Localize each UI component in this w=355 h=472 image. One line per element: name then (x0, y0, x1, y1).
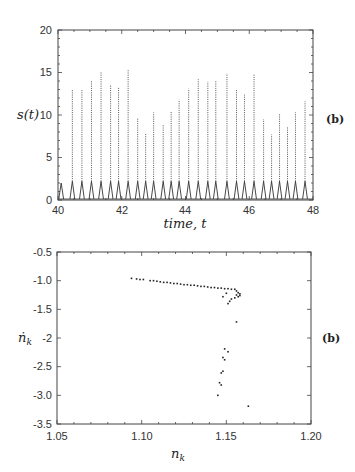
y-tick-neg3.0: -3.0 (33, 389, 52, 401)
x-tick-46: 46 (243, 204, 255, 216)
bottom-plot-ticks (57, 252, 311, 424)
x-tick-48: 48 (307, 204, 319, 216)
time-series-plot: 0 5 10 15 20 40 42 44 46 48 s(t) time, t… (17, 24, 344, 231)
ylabel-subscript: k (26, 337, 31, 347)
bottom-plot-series (131, 278, 249, 407)
top-x-tick-labels: 40 42 44 46 48 (52, 204, 319, 216)
y-tick-15: 15 (40, 66, 52, 78)
bottom-panel-label: (b) (322, 332, 340, 345)
x-tick-1.05: 1.05 (46, 430, 67, 442)
top-x-axis-label: time, t (164, 216, 208, 231)
y-tick-neg1.0: -1.0 (33, 274, 52, 286)
x-tick-1.10: 1.10 (131, 430, 152, 442)
return-map-plot: -0.5 -1.0 -1.5 -2 -2.5 -3.0 -3.5 1.05 1.… (18, 246, 340, 463)
xlabel-main: n (171, 446, 179, 461)
bottom-x-tick-labels: 1.05 1.10 1.15 1.20 (46, 430, 321, 442)
y-tick-neg2.5: -2.5 (33, 360, 52, 372)
ylabel-main: ṅ (18, 330, 26, 345)
x-tick-40: 40 (52, 204, 64, 216)
top-y-axis-label: s(t) (17, 107, 39, 122)
bottom-y-axis-label: ṅk (18, 330, 32, 347)
y-tick-neg2: -2 (42, 332, 52, 344)
x-tick-1.20: 1.20 (300, 430, 321, 442)
y-tick-20: 20 (40, 24, 52, 36)
top-plot-ticks (58, 30, 313, 200)
top-plot-frame (58, 30, 313, 200)
bottom-plot-frame (57, 252, 311, 424)
x-tick-1.15: 1.15 (215, 430, 236, 442)
bottom-y-tick-labels: -0.5 -1.0 -1.5 -2 -2.5 -3.0 -3.5 (33, 246, 52, 430)
x-tick-42: 42 (116, 204, 128, 216)
y-tick-neg3.5: -3.5 (33, 418, 52, 430)
bottom-x-axis-label: nk (171, 446, 185, 463)
y-tick-10: 10 (40, 109, 52, 121)
top-panel-label: (b) (326, 113, 344, 126)
top-plot-series (58, 69, 313, 199)
top-y-tick-labels: 0 5 10 15 20 (40, 24, 52, 206)
x-tick-44: 44 (179, 204, 191, 216)
y-tick-neg1.5: -1.5 (33, 303, 52, 315)
y-tick-neg0.5: -0.5 (33, 246, 52, 258)
xlabel-subscript: k (179, 453, 184, 463)
y-tick-5: 5 (46, 151, 52, 163)
figure: 0 5 10 15 20 40 42 44 46 48 s(t) time, t… (0, 0, 355, 472)
